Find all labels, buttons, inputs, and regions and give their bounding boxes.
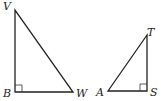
triangle-tas: T A S xyxy=(95,26,158,99)
right-angle-marker-b xyxy=(15,85,22,92)
vertex-label-a: A xyxy=(95,86,104,99)
vertex-label-v: V xyxy=(3,0,12,13)
triangle-vbw-outline xyxy=(15,10,73,92)
vertex-label-w: W xyxy=(76,87,89,100)
vertex-label-b: B xyxy=(2,87,11,100)
triangle-tas-outline xyxy=(108,35,147,91)
vertex-label-s: S xyxy=(150,86,158,99)
vertex-label-t: T xyxy=(147,26,156,39)
triangles-diagram: V B W T A S xyxy=(0,0,161,101)
right-angle-marker-s xyxy=(140,84,147,91)
triangle-vbw: V B W xyxy=(2,0,89,100)
